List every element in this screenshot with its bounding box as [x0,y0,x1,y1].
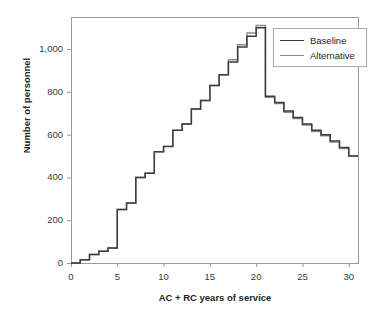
legend-swatch-baseline [280,40,304,41]
figure: Number of personnel AC + RC years of ser… [0,0,380,319]
x-tick-label: 20 [236,271,276,282]
x-tick-label: 0 [51,271,91,282]
y-tick-label: 0 [15,257,63,268]
x-tick-label: 15 [190,271,230,282]
y-tick-label: 1,000 [15,43,63,54]
x-axis-label: AC + RC years of service [71,292,359,303]
y-tick-label: 400 [15,171,63,182]
y-tick-label: 200 [15,214,63,225]
x-tick-label: 25 [282,271,322,282]
legend-item-alternative: Alternative [280,48,355,63]
y-axis-label: Number of personnel [21,36,32,176]
x-tick-label: 30 [329,271,369,282]
chart-legend: Baseline Alternative [273,28,367,67]
y-tick-label: 800 [15,86,63,97]
legend-label-alternative: Alternative [310,51,355,61]
x-tick-label: 10 [144,271,184,282]
legend-label-baseline: Baseline [310,36,346,46]
legend-item-baseline: Baseline [280,33,346,48]
x-tick-label: 5 [97,271,137,282]
legend-swatch-alternative [280,55,304,56]
y-tick-label: 600 [15,129,63,140]
